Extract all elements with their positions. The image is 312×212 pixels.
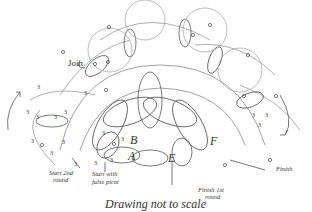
stitch-count: 3 <box>50 150 53 156</box>
stitch-count: 3 <box>62 139 65 145</box>
diagram-drawing <box>0 0 312 212</box>
stitch-count: 3 <box>102 130 105 136</box>
ring-letter-e: E <box>168 152 175 164</box>
stitch-count: 3 <box>31 138 34 144</box>
stitch-count: 3 <box>265 112 268 118</box>
stitch-count: 3 <box>36 114 39 120</box>
stitch-count: 3 <box>54 114 57 120</box>
ring-letter-a: A <box>128 150 135 162</box>
start-false-picot-label-line2: false picot <box>92 179 119 186</box>
join-label: Join <box>68 59 83 68</box>
stitch-count: 3 <box>121 136 124 142</box>
stitch-count: 3 <box>252 112 255 118</box>
stitch-count: 3 <box>64 109 67 115</box>
finish-label: Finish <box>276 166 293 173</box>
stitch-count: 3 <box>84 90 87 96</box>
stitch-count: 3 <box>258 122 261 128</box>
stitch-count: 3 <box>94 160 97 166</box>
tatting-diagram: A B E F Join Start 2nd round Start with … <box>0 0 312 212</box>
caption: Drawing not to scale <box>105 198 206 210</box>
ring-letter-b: B <box>130 134 137 146</box>
stitch-count: 3 <box>110 157 113 163</box>
finish-1st-round-label-line2: round <box>205 194 220 201</box>
start-2nd-round-label-line2: round <box>53 177 68 184</box>
stitch-count: 3 <box>37 84 40 90</box>
ring-letter-f: F <box>210 135 217 147</box>
stitch-count: 3 <box>74 161 77 167</box>
start-false-picot-label-line1: Start with <box>92 171 117 178</box>
stitch-count: 3 <box>26 109 29 115</box>
